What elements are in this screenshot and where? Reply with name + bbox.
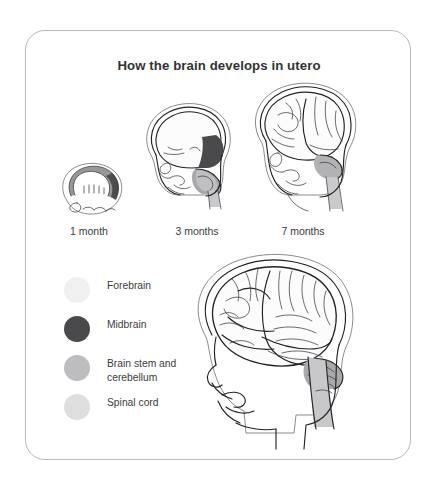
embryo-brain-1-month-icon — [54, 159, 130, 221]
fetal-head-brain-3-months-icon — [138, 99, 242, 217]
legend-swatch-midbrain — [64, 316, 90, 342]
legend-swatch-forebrain — [64, 277, 90, 303]
stage-label-7-months: 7 months — [248, 225, 358, 237]
legend-swatch-spinal-cord — [64, 394, 90, 420]
child-head-brain-profile-icon — [176, 251, 406, 451]
page-title: How the brain develops in utero — [26, 58, 412, 73]
fetal-head-brain-7-months-icon — [244, 81, 370, 221]
legend-swatch-brainstem-cerebellum — [64, 355, 90, 381]
stage-label-1-month: 1 month — [34, 225, 144, 237]
stage-label-3-months: 3 months — [142, 225, 252, 237]
figure-card: How the brain develops in utero 1 month — [25, 30, 411, 460]
